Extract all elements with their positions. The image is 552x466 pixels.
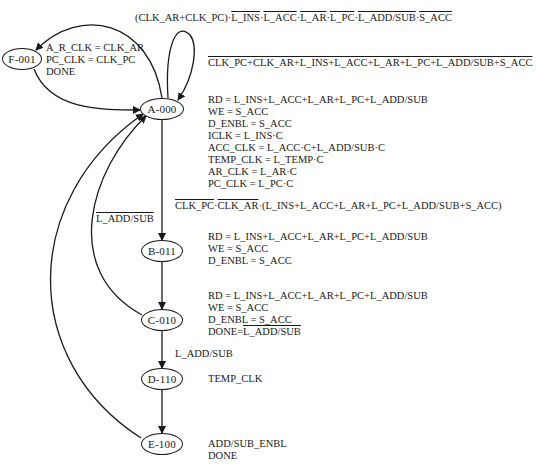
state-node-c-010: C-010 xyxy=(141,309,183,331)
output-line: WE = S_ACC xyxy=(208,243,428,255)
transition-label-c-to-a: L_ADD/SUB xyxy=(96,213,154,225)
transition-label-a-self: CLK_PC+CLK_AR+L_INS+L_ACC+L_AR+L_PC+L_AD… xyxy=(208,57,532,69)
output-line: DONE xyxy=(46,66,144,78)
output-line: ICLK = L_INS·C xyxy=(208,130,428,142)
output-line: A_R_CLK = CLK_AR xyxy=(46,42,144,54)
state-node-e-100: E-100 xyxy=(141,433,183,455)
output-line: TEMP_CLK xyxy=(208,373,262,385)
output-line: PC_CLK = CLK_PC xyxy=(46,54,144,66)
output-line: ADD/SUB_ENBL xyxy=(208,438,287,450)
condition-term: CLK_PC xyxy=(175,200,214,211)
transition-label-c-to-d: L_ADD/SUB xyxy=(175,348,233,360)
condition-term: L_PC xyxy=(330,12,355,23)
output-line: RD = L_INS+L_ACC+L_AR+L_PC+L_ADD/SUB xyxy=(208,94,428,106)
condition-rest: ·(L_INS+L_ACC+L_AR+L_PC+L_ADD/SUB+S_ACC) xyxy=(258,200,501,211)
output-line-done: DONE=L_ADD/SUB xyxy=(208,326,428,338)
transition-label-a-to-b: CLK_PC·CLK_AR·(L_INS+L_ACC+L_AR+L_PC+L_A… xyxy=(175,200,502,212)
state-node-b-011: B-011 xyxy=(141,240,183,262)
f-001-outputs: A_R_CLK = CLK_AR PC_CLK = CLK_PC DONE xyxy=(46,42,144,78)
output-line: WE = S_ACC xyxy=(208,302,428,314)
output-line: D_ENBL = S_ACC xyxy=(208,314,428,326)
condition-term: CLK_AR xyxy=(218,200,259,211)
state-node-a-000: A-000 xyxy=(140,98,184,120)
output-line: AR_CLK = L_AR·C xyxy=(208,166,428,178)
a-000-outputs: RD = L_INS+L_ACC+L_AR+L_PC+L_ADD/SUB WE … xyxy=(208,94,428,190)
output-line: RD = L_INS+L_ACC+L_AR+L_PC+L_ADD/SUB xyxy=(208,231,428,243)
output-line: PC_CLK = L_PC·C xyxy=(208,178,428,190)
output-line: RD = L_INS+L_ACC+L_AR+L_PC+L_ADD/SUB xyxy=(208,290,428,302)
output-line: WE = S_ACC xyxy=(208,106,428,118)
condition-term: L_ADD/SUB xyxy=(358,12,416,23)
edge-a-self xyxy=(167,31,194,100)
condition-term: L_INS xyxy=(231,12,260,23)
done-condition: L_ADD/SUB xyxy=(243,326,301,337)
output-line: D_ENBL = S_ACC xyxy=(208,118,428,130)
condition-term: S_ACC xyxy=(419,12,452,23)
output-line: ACC_CLK = L_ACC·C+L_ADD/SUB·C xyxy=(208,142,428,154)
condition-term: L_ACC xyxy=(263,12,296,23)
edge-e-to-a xyxy=(50,114,143,438)
output-line: DONE xyxy=(208,450,287,462)
output-line: D_ENBL = S_ACC xyxy=(208,255,428,267)
b-011-outputs: RD = L_INS+L_ACC+L_AR+L_PC+L_ADD/SUB WE … xyxy=(208,231,428,267)
state-node-d-110: D-110 xyxy=(141,368,183,390)
e-100-outputs: ADD/SUB_ENBL DONE xyxy=(208,438,287,462)
condition-prefix: (CLK_AR+CLK_PC)· xyxy=(135,12,231,23)
d-110-outputs: TEMP_CLK xyxy=(208,373,262,385)
transition-label-a-to-f: (CLK_AR+CLK_PC)·L_INS·L_ACC·L_AR·L_PC·L_… xyxy=(135,12,452,24)
done-prefix: DONE= xyxy=(208,326,243,337)
state-node-f-001: F-001 xyxy=(2,48,42,70)
condition-term: L_AR xyxy=(300,12,326,23)
c-010-outputs: RD = L_INS+L_ACC+L_AR+L_PC+L_ADD/SUB WE … xyxy=(208,290,428,338)
output-line: TEMP_CLK = L_TEMP·C xyxy=(208,154,428,166)
